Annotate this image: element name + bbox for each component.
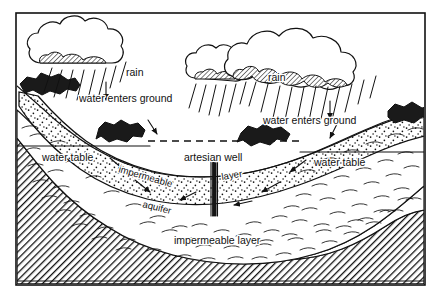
label-rain-right: rain [268,71,286,83]
label-artesian-well: artesian well [184,151,242,163]
label-water-table-left: water table [41,151,94,163]
cross-section-illustration: rain rain water enters ground water ente… [0,0,442,300]
label-water-enters-ground-left: water enters ground [78,92,173,104]
label-water-enters-ground-right: water enters ground [262,114,357,126]
label-impermeable-layer-bottom: impermeable layer [174,234,261,246]
label-rain-left: rain [126,66,144,78]
groundwater-diagram: rain rain water enters ground water ente… [0,0,442,300]
artesian-well-pipe [213,160,217,216]
label-water-table-right: water table [313,156,366,168]
